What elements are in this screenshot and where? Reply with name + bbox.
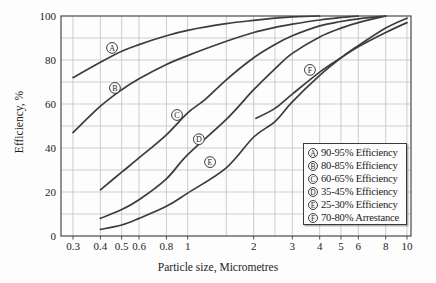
legend-item: F 70-80% Arrestance [308,211,406,224]
x-tick-label: 3 [290,240,296,252]
legend-letter-icon: F [308,213,318,223]
y-tick-label: 60 [45,98,57,110]
y-tick-label: 80 [45,54,57,66]
annotation-letter-C: C [174,111,179,120]
legend-letter-icon: D [308,187,318,197]
annotation-letter-E: E [208,158,213,167]
efficiency-chart-figure: 0.30.40.50.60.8123456810020406080100ABCD… [0,0,436,283]
legend-label: 35-45% Efficiency [321,185,398,198]
chart-legend: A 90-95% Efficiency B 80-85% Efficiency … [303,143,407,225]
annotation-letter-B: B [112,84,117,93]
x-tick-label: 2 [251,240,257,252]
legend-item: B 80-85% Efficiency [308,159,406,172]
x-tick-label: 6 [356,240,362,252]
annotation-letter-A: A [109,44,115,53]
x-tick-label: 10 [401,240,413,252]
x-tick-label: 8 [383,240,389,252]
y-tick-label: 40 [45,142,57,154]
x-tick-label: 0.6 [132,240,146,252]
annotation-letter-F: F [308,66,313,75]
legend-letter-icon: C [308,174,318,184]
legend-label: 70-80% Arrestance [321,211,399,224]
x-tick-label: 1 [185,240,191,252]
x-tick-label: 0.3 [66,240,80,252]
legend-item: C 60-65% Efficiency [308,172,406,185]
legend-letter-icon: E [308,200,318,210]
y-tick-label: 20 [45,186,57,198]
legend-item: E 25-30% Efficiency [308,198,406,211]
legend-label: 90-95% Efficiency [321,146,398,159]
legend-label: 25-30% Efficiency [321,198,398,211]
x-tick-label: 4 [317,240,323,252]
legend-item: A 90-95% Efficiency [308,146,406,159]
annotation-letter-D: D [196,135,202,144]
chart-plot-area: 0.30.40.50.60.8123456810020406080100ABCD… [0,0,436,283]
y-tick-label: 100 [40,10,57,22]
x-axis-title: Particle size, Micrometres [158,261,278,273]
y-tick-label: 0 [51,230,57,242]
legend-letter-icon: B [308,161,318,171]
legend-item: D 35-45% Efficiency [308,185,406,198]
x-tick-label: 0.8 [160,240,174,252]
y-axis-title: Efficiency, % [13,91,25,153]
legend-label: 80-85% Efficiency [321,159,398,172]
x-tick-label: 0.4 [94,240,108,252]
x-tick-label: 0.5 [115,240,129,252]
x-tick-label: 5 [338,240,344,252]
legend-label: 60-65% Efficiency [321,172,398,185]
legend-letter-icon: A [308,148,318,158]
